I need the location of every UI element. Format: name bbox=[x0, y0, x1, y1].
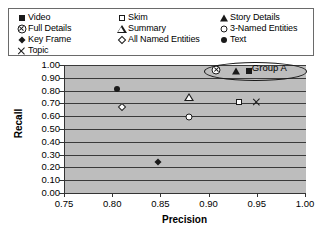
x-axis-tickmark bbox=[305, 193, 306, 197]
data-point-summary bbox=[183, 91, 195, 103]
legend-item-skim: Skim bbox=[115, 12, 217, 23]
cross-icon bbox=[252, 98, 261, 107]
legend-item-3-named-entities: 3-Named Entities bbox=[217, 23, 313, 34]
open-diamond-icon bbox=[115, 34, 128, 45]
open-circle-icon bbox=[186, 114, 193, 121]
open-triangle-icon bbox=[115, 23, 128, 34]
y-axis-tick-labels: 0.000.100.200.300.400.500.600.700.800.90… bbox=[24, 58, 60, 193]
legend-item-label: Summary bbox=[128, 23, 166, 34]
x-axis-tick-label: 0.80 bbox=[95, 199, 129, 209]
y-axis-tick-label: 0.90 bbox=[42, 73, 61, 82]
legend-item-all-named-entities: All Named Entities bbox=[115, 34, 217, 45]
y-axis-tick-label: 0.70 bbox=[42, 98, 61, 107]
legend-item-label: Full Details bbox=[28, 23, 71, 34]
legend-item-story-details: Story Details bbox=[217, 12, 313, 23]
y-axis-tickmark bbox=[59, 155, 64, 156]
legend-box: Video Full Details Key Frame Topic Skim … bbox=[8, 8, 314, 56]
y-axis-tickmark bbox=[59, 65, 64, 66]
legend-column-2: Skim Summary All Named Entities bbox=[115, 12, 217, 45]
filled-circle-icon bbox=[217, 34, 230, 45]
open-square-icon bbox=[115, 12, 128, 23]
x-axis-tick-label: 0.75 bbox=[47, 199, 81, 209]
y-axis-tickmark bbox=[59, 129, 64, 130]
y-axis-tick-label: 0.80 bbox=[42, 86, 61, 95]
legend-item-label: 3-Named Entities bbox=[230, 23, 297, 34]
y-axis-tick-label: 0.10 bbox=[42, 175, 61, 184]
legend-column-1: Video Full Details Key Frame Topic bbox=[15, 12, 115, 56]
plot-area bbox=[64, 65, 306, 194]
data-point-key-frame bbox=[152, 156, 164, 168]
open-circle-icon bbox=[217, 23, 230, 34]
legend-item-label: All Named Entities bbox=[128, 34, 200, 45]
x-axis-tick-labels: 0.750.800.850.900.951.00 bbox=[0, 199, 326, 213]
x-axis-tick-label: 0.90 bbox=[192, 199, 226, 209]
gridline bbox=[65, 180, 306, 181]
data-point-topic bbox=[251, 96, 263, 108]
y-axis-tick-label: 0.20 bbox=[42, 162, 61, 171]
data-point-all-named-entities bbox=[116, 101, 128, 113]
legend-item-label: Skim bbox=[128, 12, 148, 23]
y-axis-tick-label: 1.00 bbox=[42, 60, 61, 69]
filled-diamond-icon bbox=[155, 159, 162, 166]
y-axis-tickmark bbox=[59, 116, 64, 117]
x-axis-tickmark bbox=[160, 193, 161, 197]
gridline bbox=[65, 142, 306, 143]
gridline bbox=[65, 129, 306, 130]
data-point-3-named-entities bbox=[183, 111, 195, 123]
x-axis-tickmark bbox=[64, 193, 65, 197]
group-annotation-label: Group A bbox=[252, 62, 287, 73]
legend-item-label: Text bbox=[230, 34, 246, 45]
x-axis-tickmark bbox=[209, 193, 210, 197]
open-diamond-icon bbox=[118, 102, 126, 110]
y-axis-tick-label: 0.60 bbox=[42, 111, 61, 120]
y-axis-tickmark bbox=[59, 180, 64, 181]
x-axis-tick-label: 1.00 bbox=[288, 199, 322, 209]
gridline bbox=[65, 155, 306, 156]
filled-diamond-icon bbox=[15, 34, 28, 45]
x-axis-title: Precision bbox=[64, 214, 305, 225]
x-axis-tick-label: 0.85 bbox=[143, 199, 177, 209]
legend-item-topic: Topic bbox=[15, 45, 115, 56]
circle-cross-icon bbox=[15, 23, 28, 34]
legend-column-3: Story Details 3-Named Entities Text bbox=[217, 12, 313, 45]
legend-item-full-details: Full Details bbox=[15, 23, 115, 34]
x-axis-tickmark bbox=[112, 193, 113, 197]
data-point-skim bbox=[233, 96, 245, 108]
y-axis-tickmark bbox=[59, 91, 64, 92]
legend-item-video: Video bbox=[15, 12, 115, 23]
y-axis-tickmark bbox=[59, 142, 64, 143]
y-axis-title: Recall bbox=[13, 94, 24, 154]
legend-item-label: Video bbox=[28, 12, 50, 23]
x-axis-tickmark bbox=[257, 193, 258, 197]
legend-item-text: Text bbox=[217, 34, 313, 45]
y-axis-tickmark bbox=[59, 167, 64, 168]
open-triangle-icon bbox=[184, 93, 194, 101]
filled-square-icon bbox=[15, 12, 28, 23]
legend-item-label: Key Frame bbox=[28, 34, 71, 45]
cross-icon bbox=[15, 45, 28, 56]
y-axis-tick-label: 0.40 bbox=[42, 137, 61, 146]
y-axis-tickmark bbox=[59, 78, 64, 79]
y-axis-tick-label: 0.50 bbox=[42, 124, 61, 133]
y-axis-tick-label: 0.00 bbox=[42, 188, 61, 197]
legend-item-label: Topic bbox=[28, 45, 49, 56]
scatter-chart: Recall 0.000.100.200.300.400.500.600.700… bbox=[0, 58, 326, 240]
y-axis-tick-label: 0.30 bbox=[42, 150, 61, 159]
x-axis-tick-label: 0.95 bbox=[240, 199, 274, 209]
legend-item-key-frame: Key Frame bbox=[15, 34, 115, 45]
filled-circle-icon bbox=[114, 86, 120, 92]
filled-triangle-icon bbox=[217, 12, 230, 23]
gridline bbox=[65, 103, 306, 104]
data-point-text bbox=[111, 83, 123, 95]
y-axis-tickmark bbox=[59, 103, 64, 104]
legend-item-summary: Summary bbox=[115, 23, 217, 34]
gridline bbox=[65, 167, 306, 168]
open-square-icon bbox=[236, 99, 242, 105]
legend-item-label: Story Details bbox=[230, 12, 280, 23]
